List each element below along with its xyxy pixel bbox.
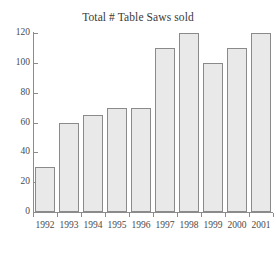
bar (251, 33, 271, 212)
x-axis-tick-mark (273, 213, 274, 217)
x-axis-tick-mark (177, 213, 178, 217)
bar (35, 167, 55, 212)
x-axis-tick-mark (33, 213, 34, 217)
bar (203, 63, 223, 212)
bar (59, 123, 79, 213)
y-axis-tick-label: 0 (25, 206, 30, 216)
x-axis-label: 1999 (201, 220, 225, 230)
x-axis-label: 2001 (249, 220, 273, 230)
y-axis-tick-label: 100 (16, 57, 30, 67)
y-axis-tick-label: 80 (21, 87, 31, 97)
x-axis-label: 1996 (129, 220, 153, 230)
bar (131, 108, 151, 212)
x-axis-tick-mark (129, 213, 130, 217)
y-axis-tick-label: 20 (21, 176, 31, 186)
chart-title: Total # Table Saws sold (0, 11, 276, 23)
y-axis-tick-label: 60 (21, 117, 31, 127)
bar (227, 48, 247, 212)
x-axis-label: 1992 (33, 220, 57, 230)
bar-chart-figure: Total # Table Saws sold 020406080100120 … (0, 0, 276, 256)
y-axis-tick-mark (34, 212, 38, 213)
y-axis-tick: 0 (34, 212, 38, 213)
x-axis-tick-mark (201, 213, 202, 217)
x-axis-label: 2000 (225, 220, 249, 230)
x-axis-tick-mark (153, 213, 154, 217)
bar (83, 115, 103, 212)
x-axis-tick-mark (225, 213, 226, 217)
plot-area (33, 33, 273, 212)
x-axis-tick-mark (57, 213, 58, 217)
x-axis-label: 1995 (105, 220, 129, 230)
bar (155, 48, 175, 212)
bar (107, 108, 127, 212)
x-axis-tick-mark (249, 213, 250, 217)
y-axis-tick-label: 120 (16, 27, 30, 37)
x-axis-tick-mark (105, 213, 106, 217)
x-axis-label: 1998 (177, 220, 201, 230)
x-axis-label: 1997 (153, 220, 177, 230)
y-axis-tick-label: 40 (21, 146, 31, 156)
x-axis-tick-mark (81, 213, 82, 217)
bar (179, 33, 199, 212)
x-axis-label: 1994 (81, 220, 105, 230)
x-axis-label: 1993 (57, 220, 81, 230)
